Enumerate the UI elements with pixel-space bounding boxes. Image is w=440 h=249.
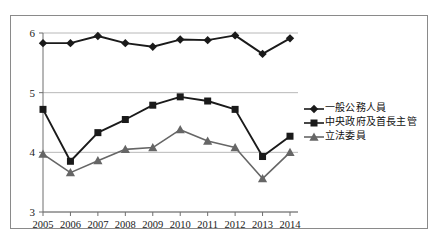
y-tick-label-6: 6 [15,28,35,39]
series-2-marker-2013 [259,153,266,160]
chart-container: 3456 20052006200720082009201020112012201… [0,0,440,249]
series-line-2 [43,97,290,161]
legend-diamond-icon [303,101,325,113]
series-2-marker-2007 [94,129,101,136]
legend-item-label: 立法委員 [325,127,366,142]
y-tick-label-5: 5 [15,88,35,99]
legend-item-1[interactable]: 一般公務人員 [303,100,425,113]
gridlines-group [43,33,298,212]
legend-item-3[interactable]: 立法委員 [303,128,425,141]
legend-square-icon [303,115,325,127]
legend-item-label: 中央政府及首長主管 [325,113,417,128]
series-1-marker-2014 [286,34,294,42]
series-lines-group [43,35,290,178]
axis-lines-group [39,33,298,212]
series-1-marker-2010 [176,35,184,43]
y-tick-label-3: 3 [15,207,35,218]
legend-item-label: 一般公務人員 [325,99,386,114]
series-3-marker-2007 [93,156,102,164]
legend-triangle-icon [303,129,325,141]
series-3-marker-2005 [38,150,47,158]
series-3-marker-2010 [176,125,185,133]
y-tick-label-4: 4 [15,147,35,158]
series-markers-group [38,31,294,182]
series-2-marker-2006 [67,158,74,165]
series-2-marker-2011 [204,98,211,105]
series-3-marker-2006 [66,168,75,176]
series-2-marker-2005 [40,106,47,113]
series-3-marker-2011 [203,136,212,144]
chart-legend: 一般公務人員中央政府及首長主管立法委員 [303,100,425,142]
x-tick-marks-group [43,212,290,216]
series-line-3 [43,130,290,179]
series-1-marker-2006 [66,39,74,47]
series-1-marker-2005 [39,39,47,47]
series-2-marker-2012 [232,106,239,113]
series-2-marker-2008 [122,116,129,123]
series-1-marker-2008 [121,39,129,47]
series-1-marker-2011 [203,36,211,44]
x-tick-label-2014: 2014 [273,220,307,231]
series-2-marker-2009 [149,102,156,109]
series-2-marker-2010 [177,93,184,100]
series-line-1 [43,35,290,53]
series-1-marker-2009 [149,43,157,51]
legend-item-2[interactable]: 中央政府及首長主管 [303,114,425,127]
series-2-marker-2014 [287,133,294,140]
